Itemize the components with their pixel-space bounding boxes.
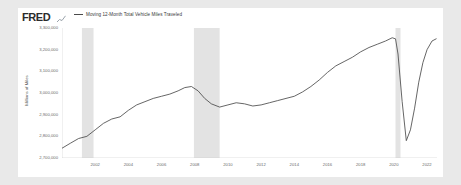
x-axis-tick-label: 2006 — [157, 162, 166, 167]
x-axis-tick-labels: 2002200420062008201020122014201620182020… — [18, 162, 443, 172]
plot-background — [62, 28, 437, 158]
fred-logo: FRED — [22, 11, 50, 23]
x-axis-tick-label: 2002 — [90, 162, 99, 167]
plot-area: Millions of Miles 3,300,0003,200,0003,10… — [18, 26, 443, 177]
y-axis-tick-label: 2,900,000 — [24, 112, 58, 117]
y-axis-tick-labels: 3,300,0003,200,0003,100,0003,000,0002,90… — [24, 26, 58, 158]
y-axis-tick-label: 3,300,000 — [24, 25, 58, 30]
y-axis-tick-label: 3,200,000 — [24, 47, 58, 52]
y-axis-tick-label: 2,800,000 — [24, 133, 58, 138]
recession-band — [82, 28, 94, 158]
x-axis-tick-label: 2012 — [256, 162, 265, 167]
chart-header: FRED Moving 12-Month Total Vehicle Miles… — [18, 8, 443, 28]
x-axis-tick-label: 2016 — [323, 162, 332, 167]
x-axis-tick-label: 2008 — [190, 162, 199, 167]
x-axis-tick-label: 2018 — [356, 162, 365, 167]
legend-color-swatch — [74, 14, 83, 15]
x-axis-tick-label: 2020 — [389, 162, 398, 167]
y-axis-tick-label: 2,700,000 — [24, 155, 58, 160]
recession-band — [396, 28, 401, 158]
chart-canvas — [62, 28, 437, 158]
recession-band — [194, 28, 220, 158]
x-axis-tick-label: 2014 — [290, 162, 299, 167]
x-axis-tick-label: 2022 — [422, 162, 431, 167]
x-axis-tick-label: 2004 — [124, 162, 133, 167]
y-axis-tick-label: 3,100,000 — [24, 68, 58, 73]
mini-line-chart-icon — [57, 15, 66, 23]
x-axis-tick-label: 2010 — [223, 162, 232, 167]
legend-item-label: Moving 12-Month Total Vehicle Miles Trav… — [86, 12, 182, 17]
fred-chart-widget: FRED Moving 12-Month Total Vehicle Miles… — [18, 8, 443, 177]
y-axis-tick-label: 3,000,000 — [24, 90, 58, 95]
chart-legend: Moving 12-Month Total Vehicle Miles Trav… — [74, 12, 182, 17]
